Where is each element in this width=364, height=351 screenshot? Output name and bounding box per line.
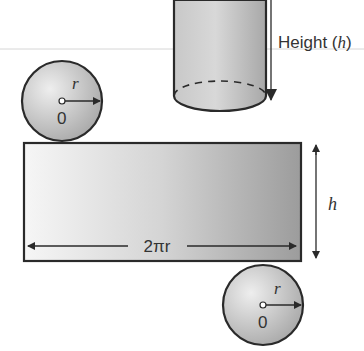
top-circle: r 0 (22, 61, 102, 141)
rect-height-label: h (328, 194, 337, 214)
cylinder-net-diagram: Height (h) r 0 2πr h r 0 (0, 0, 364, 351)
radius-label-top: r (72, 74, 79, 93)
cylinder (174, 0, 266, 111)
bottom-circle: r 0 (223, 265, 303, 345)
center-label-top: 0 (57, 109, 66, 128)
circumference-label: 2πr (144, 237, 171, 256)
height-label: Height (h) (278, 33, 352, 52)
radius-label-bottom: r (274, 279, 281, 298)
center-label-bottom: 0 (258, 313, 267, 332)
